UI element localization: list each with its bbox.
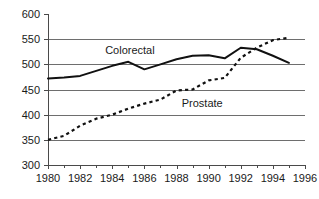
x-tick-label: 1992 <box>229 172 253 184</box>
axes <box>48 14 305 166</box>
x-tick-label: 1984 <box>100 172 124 184</box>
x-tick-label: 1996 <box>293 172 317 184</box>
x-tick-label: 1980 <box>36 172 60 184</box>
series-annotation-prostate: Prostate <box>182 97 223 109</box>
x-tick-label: 1988 <box>164 172 188 184</box>
y-tick-label: 550 <box>22 33 40 45</box>
x-tick-labels: 198019821984198619881990199219941996 <box>36 172 317 184</box>
series-annotation-colorectal: Colorectal <box>105 44 155 56</box>
line-chart: 300350400450500550600 198019821984198619… <box>0 0 319 199</box>
series-lines <box>48 38 289 140</box>
y-tick-label: 600 <box>22 8 40 20</box>
chart-screenshot: 300350400450500550600 198019821984198619… <box>0 0 319 199</box>
x-tick-label: 1986 <box>132 172 156 184</box>
x-tick-label: 1990 <box>196 172 220 184</box>
x-tick-label: 1982 <box>68 172 92 184</box>
y-tick-label: 350 <box>22 134 40 146</box>
series-line-prostate <box>48 38 289 140</box>
gridlines <box>48 40 305 141</box>
series-line-colorectal <box>48 48 289 79</box>
y-tick-label: 450 <box>22 84 40 96</box>
y-tick-labels: 300350400450500550600 <box>22 8 40 171</box>
y-tick-label: 500 <box>22 58 40 70</box>
y-tick-label: 400 <box>22 109 40 121</box>
series-annotations: ColorectalProstate <box>105 44 223 108</box>
x-tick-label: 1994 <box>261 172 285 184</box>
y-tick-label: 300 <box>22 159 40 171</box>
